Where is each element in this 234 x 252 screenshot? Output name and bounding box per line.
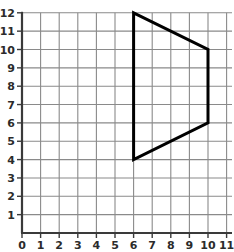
y-axis-label: 7 (7, 99, 15, 110)
x-axis-label: 9 (186, 240, 194, 251)
x-axis-label: 6 (130, 240, 138, 251)
y-axis-label: 5 (7, 136, 15, 147)
y-axis-label: 11 (0, 26, 15, 37)
y-axis-label: 3 (7, 172, 15, 183)
y-axis-label: 9 (7, 62, 15, 73)
x-axis-label: 7 (148, 240, 156, 251)
y-axis-label: 10 (0, 44, 15, 55)
y-axis-label: 4 (7, 154, 15, 165)
y-axis-label: 8 (7, 81, 15, 92)
x-axis-label: 0 (18, 240, 26, 251)
x-axis-label: 10 (200, 240, 215, 251)
x-axis-label: 3 (74, 240, 82, 251)
y-axis-label: 1 (7, 209, 15, 220)
x-axis-label: 4 (93, 240, 101, 251)
plot-area (0, 0, 234, 252)
y-axis-label: 12 (0, 7, 15, 18)
x-axis-label: 11 (219, 240, 234, 251)
x-axis-label: 8 (167, 240, 175, 251)
x-axis-label: 1 (37, 240, 45, 251)
x-axis-label: 5 (111, 240, 119, 251)
coordinate-graph: 12345678910111201234567891011 (0, 0, 234, 252)
y-axis-label: 2 (7, 191, 15, 202)
y-axis-label: 6 (7, 117, 15, 128)
x-axis-label: 2 (55, 240, 63, 251)
axis-ticks (17, 13, 227, 238)
